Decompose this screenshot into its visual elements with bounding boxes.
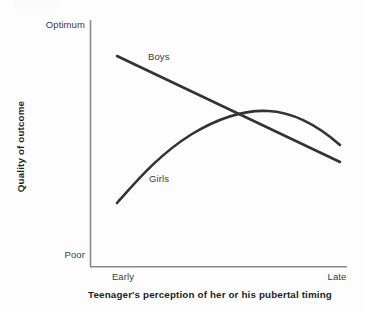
x-axis-tick-label-late: Late — [318, 271, 356, 282]
series-curve-girls — [117, 111, 340, 203]
chart-plot-area — [0, 0, 365, 312]
series-label-boys: Boys — [148, 51, 170, 62]
y-axis-tick-label-optimum: Optimum — [0, 19, 85, 30]
x-axis-tick-label-early: Early — [104, 271, 142, 282]
x-axis-title: Teenager's perception of her or his pube… — [60, 289, 360, 300]
series-label-girls: Girls — [149, 173, 169, 184]
chart-figure: Optimum Poor Early Late Boys Girls Quali… — [0, 0, 365, 312]
series-line-boys — [117, 56, 340, 162]
y-axis-tick-label-poor: Poor — [0, 249, 85, 260]
y-axis-title: Quality of outcome — [15, 72, 26, 222]
